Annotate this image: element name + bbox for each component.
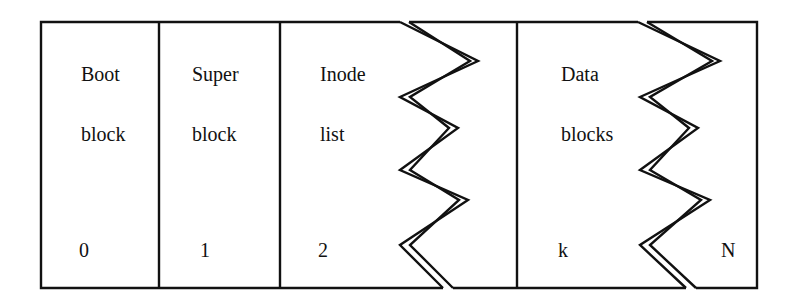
inode-break-line-inner [409,22,470,288]
end-block-index: N [721,240,735,260]
super-block-label-line1: Super [192,64,239,84]
inode-list-label-line2: list [320,124,344,144]
inode-list-index: 2 [318,240,328,260]
inode-list-label-line1: Inode [320,64,366,84]
data-break-line-outer [638,22,720,288]
filesystem-layout-diagram [0,0,791,307]
data-blocks-index: k [558,240,568,260]
boot-block-index: 0 [79,240,89,260]
data-break-line-inner [647,22,712,288]
data-blocks-label-line1: Data [561,64,599,84]
frame-left-segment [41,22,443,288]
super-block-index: 1 [200,240,210,260]
data-blocks-label-line2: blocks [561,124,613,144]
super-block-label-line2: block [192,124,236,144]
boot-block-label-line2: block [81,124,125,144]
boot-block-label-line1: Boot [81,64,120,84]
